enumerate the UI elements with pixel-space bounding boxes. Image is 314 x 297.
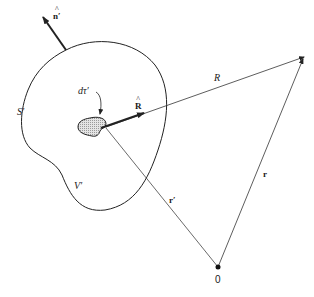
label-n-prime: n′ bbox=[53, 12, 61, 21]
unit-vector-R-hat bbox=[101, 113, 144, 128]
label-origin: 0 bbox=[215, 275, 221, 285]
label-R-hat: R bbox=[135, 102, 142, 111]
label-V-prime: V′ bbox=[74, 181, 82, 191]
label-r-prime: r′ bbox=[169, 196, 176, 205]
dtau-pointer bbox=[96, 92, 101, 114]
diagram-canvas bbox=[0, 0, 314, 297]
source-vector-r-prime bbox=[106, 128, 218, 267]
label-R: R bbox=[214, 73, 220, 83]
label-S-prime: S′ bbox=[17, 107, 24, 117]
position-vector-r bbox=[218, 59, 303, 267]
origin-point bbox=[216, 265, 221, 270]
label-r: r bbox=[263, 170, 267, 179]
normal-vector-n bbox=[43, 17, 66, 50]
label-dtau: dτ′ bbox=[78, 86, 89, 96]
